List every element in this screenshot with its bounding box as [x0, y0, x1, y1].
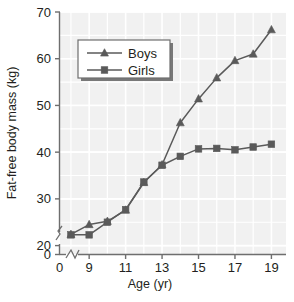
y-tick-label: 40 [37, 145, 51, 160]
y-tick-label: 50 [37, 98, 51, 113]
data-point-girls [268, 141, 275, 148]
x-axis-title: Age (yr) [128, 277, 172, 291]
data-point-girls [141, 179, 148, 186]
data-point-girls [213, 145, 220, 152]
x-tick-label: 17 [228, 260, 242, 275]
x-tick-label: 0 [56, 260, 63, 275]
data-point-girls [159, 162, 166, 169]
data-point-girls [177, 153, 184, 160]
data-point-girls [104, 219, 111, 226]
x-tick-label: 11 [119, 260, 133, 275]
data-point-girls [250, 144, 257, 151]
y-tick-label: 20 [37, 238, 51, 253]
y-tick-label: 70 [37, 5, 51, 20]
legend-label-girls: Girls [128, 63, 155, 78]
fat-free-body-mass-line-chart: 0203040506070 091113151719 Age (yr) Fat-… [0, 0, 294, 302]
y-tick-label: 30 [37, 191, 51, 206]
data-point-girls [122, 206, 129, 213]
chart-legend [78, 40, 173, 81]
y-axis-title: Fat-free body mass (kg) [5, 67, 19, 200]
data-point-girls [195, 146, 202, 153]
x-tick-label: 15 [191, 260, 205, 275]
data-point-girls [68, 232, 75, 239]
data-point-girls [86, 232, 93, 239]
legend-marker-square [101, 67, 108, 74]
y-tick-label: 60 [37, 51, 51, 66]
x-tick-label: 19 [264, 260, 278, 275]
chart-figure: 0203040506070 091113151719 Age (yr) Fat-… [0, 0, 294, 302]
data-point-girls [232, 147, 239, 154]
x-tick-label: 13 [155, 260, 169, 275]
legend-label-boys: Boys [128, 46, 157, 61]
x-tick-label: 9 [86, 260, 93, 275]
